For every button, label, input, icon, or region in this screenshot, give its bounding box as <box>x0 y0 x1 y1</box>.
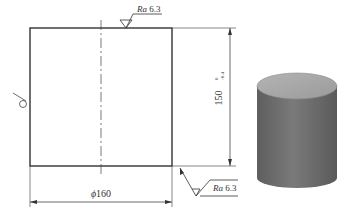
engineering-drawing: Ra 6.3 150 0 -0.4 ϕ160 Ra 6.3 <box>0 0 357 220</box>
ra-value-top: 6.3 <box>149 4 161 14</box>
svg-text:ϕ160: ϕ160 <box>91 188 111 199</box>
front-view <box>30 20 172 175</box>
svg-text:Ra 6.3: Ra 6.3 <box>212 183 237 193</box>
cylinder-3d-view <box>257 73 337 188</box>
height-value: 150 <box>213 91 224 106</box>
svg-text:Ra 6.3: Ra 6.3 <box>136 4 161 14</box>
height-tol-lower: -0.4 <box>220 72 225 80</box>
ra-value-corner: 6.3 <box>225 183 237 193</box>
roughness-symbol-top: Ra 6.3 <box>120 4 162 28</box>
ra-label-top: Ra <box>136 4 147 14</box>
height-dimension: 150 0 -0.4 <box>172 28 236 166</box>
height-tol-upper: 0 <box>214 77 219 80</box>
diameter-value: 160 <box>96 188 111 199</box>
ra-label-corner: Ra <box>212 183 223 193</box>
roughness-symbol-corner: Ra 6.3 <box>180 168 238 196</box>
surface-finish-circle-icon <box>13 93 27 108</box>
